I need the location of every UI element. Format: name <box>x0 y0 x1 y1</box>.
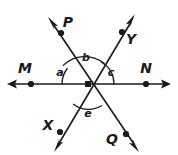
angle-label-c: c <box>108 66 115 79</box>
angle-label-b: b <box>82 51 90 64</box>
dot-P <box>58 30 64 36</box>
angle-label-e: e <box>84 107 92 120</box>
dot-Q <box>123 131 129 137</box>
dot-vertex <box>85 81 91 87</box>
label-Q: Q <box>106 131 118 147</box>
dot-M <box>28 81 34 87</box>
dot-X <box>57 129 63 135</box>
label-N: N <box>140 60 152 76</box>
geometry-diagram: M N P Q X Y a b c e <box>0 0 178 155</box>
label-X: X <box>42 117 55 133</box>
angle-label-a: a <box>56 66 63 79</box>
arrow-head-Q <box>129 139 139 152</box>
label-P: P <box>63 14 74 30</box>
label-Y: Y <box>126 31 138 47</box>
dot-Y <box>119 29 125 35</box>
arrow-head-Y <box>126 14 135 28</box>
point-labels-group: M N P Q X Y <box>18 14 152 147</box>
dot-N <box>143 81 149 87</box>
diagram-canvas: M N P Q X Y a b c e <box>0 0 178 155</box>
label-M: M <box>18 60 32 76</box>
